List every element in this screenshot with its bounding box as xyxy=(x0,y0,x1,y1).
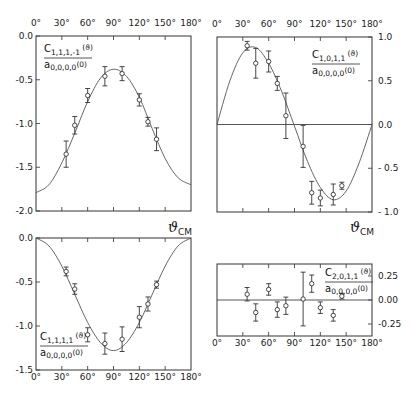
data-point xyxy=(72,117,77,135)
x-tick-label: 150° xyxy=(335,19,357,29)
label-numerator: C1,1,1,-1 (ϑ) xyxy=(44,43,93,57)
point-marker xyxy=(73,287,77,291)
y-tick-label: 0.0 xyxy=(19,233,34,243)
point-marker xyxy=(275,81,279,85)
data-point xyxy=(318,302,323,314)
point-marker xyxy=(137,98,141,102)
x-tick-label: 180° xyxy=(180,18,202,28)
point-marker xyxy=(284,114,288,118)
x-tick-label: 0° xyxy=(31,18,41,28)
panel-c1011: 0°30°60°90°120°150°180°1.00.50.0- 0.5- 1… xyxy=(212,19,399,217)
point-marker xyxy=(266,59,270,63)
x-tick-label: 150° xyxy=(154,372,176,382)
label-numerator: C1,1,1,1 (ϑ) xyxy=(40,331,86,345)
x-tick-label: 90° xyxy=(106,372,122,382)
label-numerator: C1,0,1,1 (ϑ) xyxy=(312,49,358,63)
data-point xyxy=(85,89,90,103)
data-point xyxy=(64,141,69,167)
point-marker xyxy=(146,120,150,124)
label-denominator: a0,0,0,0(0) xyxy=(312,65,355,78)
fit-curve xyxy=(36,69,191,192)
data-point xyxy=(154,281,159,288)
data-point xyxy=(253,304,258,321)
data-point xyxy=(137,307,142,328)
point-marker xyxy=(266,287,270,291)
x-tick-label: 60° xyxy=(80,372,96,382)
axis-title-sub: CM xyxy=(178,227,192,237)
point-marker xyxy=(103,341,107,345)
x-tick-label: 90° xyxy=(287,338,303,348)
data-point xyxy=(301,125,306,167)
data-point xyxy=(72,284,77,295)
y-tick-label: -1.0 xyxy=(15,119,33,129)
data-point xyxy=(245,288,250,301)
data-point xyxy=(120,67,125,81)
y-tick-label: 1.0 xyxy=(378,32,393,42)
figure-canvas: 0°30°60°90°120°150°180°0.0-0.5-1.0-1.5-2… xyxy=(0,0,411,398)
point-marker xyxy=(64,269,68,273)
point-marker xyxy=(310,191,314,195)
x-tick-label: 60° xyxy=(80,18,96,28)
data-point xyxy=(102,333,107,354)
panel-c1111: 0°30°60°90°120°150°180°0.0-0.5-1.0-1.5C1… xyxy=(15,233,201,382)
x-tick-label: 30° xyxy=(54,372,70,382)
point-marker xyxy=(318,305,322,309)
y-tick-label: - 1.0 xyxy=(378,207,399,217)
point-marker xyxy=(254,61,258,65)
y-tick-label: 0.00 xyxy=(378,295,398,305)
x-tick-label: 30° xyxy=(235,338,251,348)
panel-c1111m1: 0°30°60°90°120°150°180°0.0-0.5-1.0-1.5-2… xyxy=(15,18,201,216)
y-tick-label: 0.5 xyxy=(378,76,392,86)
point-marker xyxy=(103,74,107,78)
x-tick-label: 120° xyxy=(128,372,150,382)
data-point xyxy=(309,275,314,292)
point-marker xyxy=(275,307,279,311)
y-tick-label: -1.0 xyxy=(15,321,33,331)
data-point xyxy=(275,302,280,317)
y-tick-label: 0.0 xyxy=(19,31,34,41)
data-point xyxy=(301,272,306,326)
ratio-label: C2,0,1,1 (ϑ)a0,0,0,0(0) xyxy=(325,267,373,296)
axis-title-symbol: ϑ xyxy=(168,219,178,235)
point-marker xyxy=(154,137,158,141)
axis-title-sub: CM xyxy=(360,227,374,237)
x-tick-label: 180° xyxy=(361,19,383,29)
label-denominator: a0,0,0,0(0) xyxy=(325,283,368,296)
fit-curve xyxy=(36,238,191,351)
point-marker xyxy=(73,123,77,127)
data-point xyxy=(245,41,250,50)
point-marker xyxy=(120,337,124,341)
point-marker xyxy=(254,310,258,314)
y-tick-label: -1.5 xyxy=(15,162,33,172)
x-tick-label: 90° xyxy=(287,19,303,29)
y-tick-label: -0.5 xyxy=(15,75,33,85)
data-point xyxy=(64,267,69,276)
data-point xyxy=(266,51,271,72)
point-marker xyxy=(120,71,124,75)
ratio-label: C1,1,1,-1 (ϑ)a0,0,0,0(0) xyxy=(44,43,93,72)
label-denominator: a0,0,0,0(0) xyxy=(40,347,83,360)
data-point xyxy=(339,182,344,189)
point-marker xyxy=(331,313,335,317)
x-axis-title-right: ϑ CM xyxy=(350,219,374,237)
point-marker xyxy=(64,152,68,156)
x-tick-label: 90° xyxy=(106,18,122,28)
point-marker xyxy=(146,302,150,306)
y-tick-label: -1.5 xyxy=(15,365,33,375)
point-marker xyxy=(340,184,344,188)
data-point xyxy=(145,117,150,126)
point-marker xyxy=(318,196,322,200)
y-tick-label: 0.0 xyxy=(378,120,393,130)
x-tick-label: 120° xyxy=(309,19,331,29)
axis-title-symbol: ϑ xyxy=(350,219,360,235)
data-point xyxy=(283,93,288,139)
data-point xyxy=(102,67,107,86)
point-marker xyxy=(245,292,249,296)
label-numerator: C2,0,1,1 (ϑ) xyxy=(325,267,371,281)
x-tick-label: 120° xyxy=(309,338,331,348)
label-denominator: a0,0,0,0(0) xyxy=(44,59,87,72)
point-marker xyxy=(310,281,314,285)
ratio-label: C1,1,1,1 (ϑ)a0,0,0,0(0) xyxy=(40,331,88,360)
y-tick-label: 0.25 xyxy=(378,271,398,281)
x-tick-label: 180° xyxy=(180,372,202,382)
